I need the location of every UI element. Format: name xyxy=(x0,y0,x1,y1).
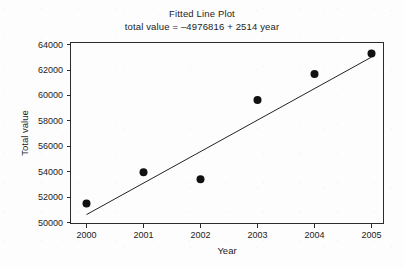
x-axis-title: Year xyxy=(217,245,236,256)
x-tick-label-2004: 2004 xyxy=(304,230,324,240)
y-tick-label-60000: 60000 xyxy=(38,90,63,100)
y-tick-label-50000: 50000 xyxy=(38,218,63,228)
plot-area-svg: 64000 62000 60000 58000 56000 54000 5200… xyxy=(0,0,404,267)
fitted-line-plot-figure: Fitted Line Plot total value = –4976816 … xyxy=(0,0,404,267)
x-tick-label-2001: 2001 xyxy=(133,230,153,240)
plot-frame xyxy=(71,43,384,224)
y-axis-title: Total value xyxy=(19,110,30,155)
x-tick-label-2000: 2000 xyxy=(76,230,96,240)
fitted-regression-line xyxy=(87,57,372,215)
x-axis-tick-labels: 2000 2001 2002 2003 2004 2005 xyxy=(76,230,381,240)
data-point-2001 xyxy=(140,168,148,176)
data-point-2002 xyxy=(197,175,205,183)
y-tick-label-56000: 56000 xyxy=(38,141,63,151)
data-point-2004 xyxy=(311,70,319,78)
y-axis-tick-labels: 64000 62000 60000 58000 56000 54000 5200… xyxy=(38,40,63,228)
data-points-group xyxy=(83,50,376,208)
data-point-2003 xyxy=(254,96,262,104)
data-point-2000 xyxy=(83,199,91,207)
y-tick-label-58000: 58000 xyxy=(38,116,63,126)
y-tick-label-62000: 62000 xyxy=(38,65,63,75)
x-tick-label-2002: 2002 xyxy=(190,230,210,240)
y-axis-ticks xyxy=(67,45,71,223)
x-tick-label-2003: 2003 xyxy=(247,230,267,240)
y-tick-label-64000: 64000 xyxy=(38,40,63,50)
x-tick-label-2005: 2005 xyxy=(361,230,381,240)
chart-screenshot: Fitted Line Plot total value = –4976816 … xyxy=(0,0,404,267)
y-tick-label-54000: 54000 xyxy=(38,167,63,177)
data-point-2005 xyxy=(368,50,376,58)
x-axis-ticks xyxy=(87,224,372,228)
y-tick-label-52000: 52000 xyxy=(38,192,63,202)
